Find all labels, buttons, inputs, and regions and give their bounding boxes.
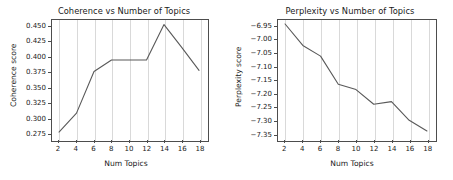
y-tick-mark <box>274 107 277 108</box>
y-tick-mark <box>274 26 277 27</box>
y-tick-mark <box>274 53 277 54</box>
x-tick-label: 14 <box>160 146 169 153</box>
x-tick-label: 16 <box>405 146 414 153</box>
chart-panel-perplexity: Perplexity vs Number of Topics −6.95−7.0… <box>227 0 453 180</box>
x-tick-label: 16 <box>178 146 187 153</box>
x-tick-mark <box>374 140 375 143</box>
x-tick-mark <box>147 140 148 143</box>
x-tick-label: 18 <box>195 146 204 153</box>
y-tick-mark <box>274 80 277 81</box>
y-tick-mark <box>274 135 277 136</box>
x-tick-mark <box>129 140 130 143</box>
y-tick-label: −7.10 <box>251 63 272 70</box>
y-tick-mark <box>274 121 277 122</box>
y-axis-label-coherence: Coherence score <box>10 47 18 107</box>
y-tick-mark <box>274 39 277 40</box>
x-tick-mark <box>320 140 321 143</box>
y-tick-label: 0.425 <box>26 38 46 45</box>
x-tick-label: 10 <box>125 146 134 153</box>
y-tick-mark <box>274 67 277 68</box>
y-tick-label: 0.375 <box>26 69 46 76</box>
x-tick-mark <box>58 140 59 143</box>
y-tick-mark <box>48 57 51 58</box>
x-tick-mark <box>410 140 411 143</box>
y-tick-label: −7.15 <box>251 77 272 84</box>
x-tick-label: 10 <box>352 146 361 153</box>
y-tick-label: −7.20 <box>251 90 272 97</box>
chart-panel-coherence: Coherence vs Number of Topics 0.2750.300… <box>0 0 226 180</box>
plot-area-perplexity <box>277 19 437 142</box>
x-tick-label: 2 <box>56 146 60 153</box>
y-tick-label: −7.05 <box>251 49 272 56</box>
x-tick-label: 8 <box>109 146 113 153</box>
y-tick-label: 0.325 <box>26 100 46 107</box>
y-tick-mark <box>48 103 51 104</box>
y-tick-mark <box>48 26 51 27</box>
x-tick-label: 6 <box>318 146 322 153</box>
y-tick-label: 0.275 <box>26 131 46 138</box>
x-axis-label-perplexity: Num Topics <box>227 160 453 168</box>
y-tick-label: −7.00 <box>251 36 272 43</box>
chart-title-perplexity: Perplexity vs Number of Topics <box>227 7 453 16</box>
y-tick-label: −7.35 <box>251 131 272 138</box>
x-tick-mark <box>200 140 201 143</box>
y-axis-label-perplexity: Perplexity score <box>235 47 243 107</box>
y-tick-label: 0.450 <box>26 22 46 29</box>
x-tick-mark <box>94 140 95 143</box>
y-tick-mark <box>48 72 51 73</box>
x-tick-mark <box>338 140 339 143</box>
x-tick-label: 2 <box>282 146 286 153</box>
x-tick-mark <box>356 140 357 143</box>
x-tick-label: 12 <box>369 146 378 153</box>
y-tick-mark <box>48 134 51 135</box>
x-tick-mark <box>111 140 112 143</box>
x-tick-label: 4 <box>74 146 78 153</box>
y-tick-label: −7.30 <box>251 117 272 124</box>
data-series-coherence <box>52 20 208 141</box>
x-tick-mark <box>284 140 285 143</box>
plot-area-coherence <box>51 19 209 142</box>
y-tick-mark <box>48 88 51 89</box>
figure-canvas: Coherence vs Number of Topics 0.2750.300… <box>0 0 453 180</box>
y-tick-mark <box>48 41 51 42</box>
x-tick-label: 18 <box>423 146 432 153</box>
y-tick-mark <box>48 119 51 120</box>
x-tick-mark <box>164 140 165 143</box>
y-tick-label: 0.300 <box>26 115 46 122</box>
x-tick-mark <box>182 140 183 143</box>
y-tick-label: 0.350 <box>26 84 46 91</box>
x-axis-label-coherence: Num Topics <box>0 160 226 168</box>
x-tick-label: 14 <box>387 146 396 153</box>
x-tick-label: 4 <box>300 146 304 153</box>
chart-title-coherence: Coherence vs Number of Topics <box>0 7 226 16</box>
x-tick-mark <box>302 140 303 143</box>
x-tick-label: 6 <box>91 146 95 153</box>
y-tick-label: −7.25 <box>251 104 272 111</box>
x-tick-label: 12 <box>142 146 151 153</box>
x-tick-mark <box>76 140 77 143</box>
y-tick-label: −6.95 <box>251 22 272 29</box>
x-tick-label: 8 <box>336 146 340 153</box>
data-series-perplexity <box>278 20 436 141</box>
x-tick-mark <box>428 140 429 143</box>
x-tick-mark <box>392 140 393 143</box>
y-tick-label: 0.400 <box>26 53 46 60</box>
y-tick-mark <box>274 94 277 95</box>
